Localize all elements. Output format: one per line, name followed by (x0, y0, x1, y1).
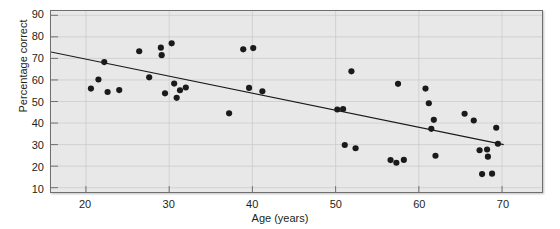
x-axis-tick-labels: 203040506070 (0, 199, 560, 213)
gridlines (51, 11, 542, 192)
x-tick-label: 70 (488, 199, 518, 210)
data-point (428, 126, 434, 132)
data-point (495, 141, 501, 147)
plot-area (50, 10, 543, 193)
x-axis-title: Age (years) (0, 212, 560, 224)
data-point (476, 147, 482, 153)
data-point (105, 89, 111, 95)
data-point (162, 90, 168, 96)
data-point (401, 157, 407, 163)
data-point (348, 68, 354, 74)
plot-canvas (51, 11, 542, 192)
x-tick-label: 60 (404, 199, 434, 210)
data-point (352, 145, 358, 151)
data-point (432, 153, 438, 159)
data-point (159, 52, 165, 58)
x-tick-label: 40 (237, 199, 267, 210)
data-point (174, 95, 180, 101)
data-point (422, 86, 428, 92)
data-point (387, 157, 393, 163)
data-point (101, 59, 107, 65)
data-point (240, 46, 246, 52)
data-point (116, 87, 122, 93)
data-point (259, 88, 265, 94)
data-point (158, 45, 164, 51)
data-point (431, 117, 437, 123)
data-point (136, 48, 142, 54)
data-point (342, 142, 348, 148)
y-tick-label: 30 (22, 140, 44, 151)
y-tick-label: 10 (22, 184, 44, 195)
data-series-participants (88, 40, 501, 177)
y-tick-label: 20 (22, 162, 44, 173)
data-point (493, 125, 499, 131)
data-point (485, 154, 491, 160)
regression-line (51, 52, 504, 145)
data-point (169, 40, 175, 46)
data-point (340, 106, 346, 112)
data-point (484, 146, 490, 152)
data-point (426, 100, 432, 106)
y-axis-title: Percentage correct (17, 0, 29, 136)
data-point (88, 86, 94, 92)
data-point (171, 81, 177, 87)
data-point (334, 106, 340, 112)
data-point (183, 84, 189, 90)
x-tick-label: 20 (70, 199, 100, 210)
data-point (95, 76, 101, 82)
scatter-plot-figure: 102030405060708090 203040506070 Percenta… (0, 0, 560, 229)
data-point (146, 74, 152, 80)
data-point (177, 87, 183, 93)
data-point (246, 85, 252, 91)
data-point (489, 171, 495, 177)
data-point (471, 117, 477, 123)
data-point (462, 111, 468, 117)
data-point (395, 81, 401, 87)
data-point (393, 160, 399, 166)
x-tick-label: 30 (154, 199, 184, 210)
data-point (250, 45, 256, 51)
data-point (479, 171, 485, 177)
x-tick-label: 50 (321, 199, 351, 210)
data-point (226, 110, 232, 116)
